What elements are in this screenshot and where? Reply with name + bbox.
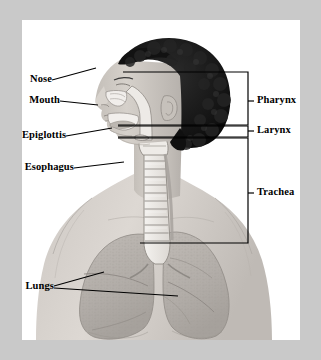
head-shape [95,60,184,145]
label-trachea: Trachea [257,187,294,198]
label-pharynx: Pharynx [257,95,296,106]
label-mouth: Mouth [22,95,60,106]
illustration-canvas: Nose Mouth Epiglottis Esophagus Lungs Ph… [22,20,300,340]
label-lungs: Lungs [22,281,54,292]
label-larynx: Larynx [257,125,291,136]
epiglottis-leader [66,128,112,136]
label-nose: Nose [22,74,52,85]
label-epiglottis: Epiglottis [22,130,66,141]
label-esophagus: Esophagus [22,162,74,173]
esophagus-leader [74,162,124,168]
nose-leader [52,68,96,80]
respiratory-system-figure: Nose Mouth Epiglottis Esophagus Lungs Ph… [0,0,321,360]
mouth-leader [60,101,98,105]
anatomy-illustration [22,20,300,340]
